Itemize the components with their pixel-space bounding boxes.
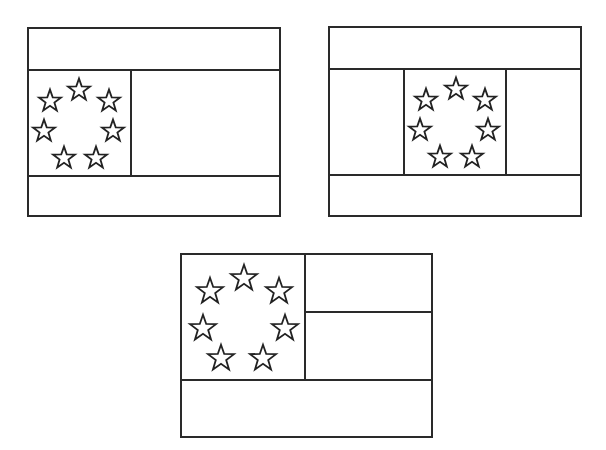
flag-variant-3 [181,254,432,437]
flag-border [181,254,432,437]
flag-border [329,27,581,216]
flag-diagram-canvas [0,0,606,450]
flag-border [28,28,280,216]
flag-variant-1 [28,28,280,216]
flag-variant-2 [329,27,581,216]
